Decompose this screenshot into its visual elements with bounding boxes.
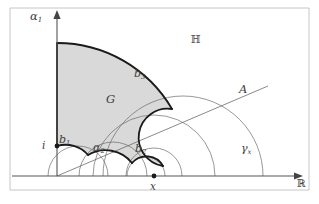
label-upper-half-plane: ℍ <box>191 34 201 45</box>
label-b-2: b2 <box>135 143 146 156</box>
label-point-i: i <box>42 140 45 151</box>
label-real-axis: ℝ <box>297 178 306 189</box>
label-geodesic-A: A <box>239 84 247 96</box>
point-x-marker <box>152 174 157 179</box>
label-region-G: G <box>106 94 115 106</box>
label-alpha-1: α1 <box>30 11 42 23</box>
hyperbolic-figure: α1 ℍ G b3 A i b1 α2 b2 γx x ℝ <box>0 0 319 204</box>
label-point-x: x <box>150 181 156 192</box>
label-alpha-2: α2 <box>93 142 105 155</box>
label-b-3: b3 <box>134 68 145 81</box>
label-b-1: b1 <box>59 134 70 147</box>
label-gamma-x: γx <box>241 143 251 156</box>
real-axis <box>12 172 303 179</box>
figure-canvas <box>0 0 319 204</box>
